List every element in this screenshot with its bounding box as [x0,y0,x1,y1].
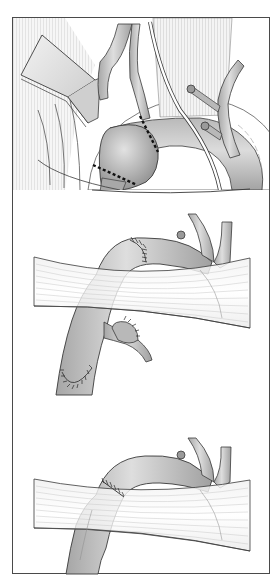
panel-1 [13,18,272,192]
vascular-clip [177,231,185,239]
tissue-band [34,479,250,551]
panel-3 [34,438,250,574]
panel-2 [34,214,250,395]
vascular-clip-lower [201,122,209,130]
branch-vessels [98,24,150,120]
figure-canvas: Three-panel surgical illustration of aor… [0,0,278,579]
surgical-illustration [0,0,278,579]
vascular-clip-upper [187,85,195,93]
vascular-clip [177,451,185,459]
